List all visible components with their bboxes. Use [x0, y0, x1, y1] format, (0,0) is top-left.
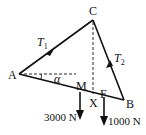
label-f: F — [100, 87, 107, 101]
load-arrowhead-f-icon — [100, 116, 108, 126]
beam-ab — [19, 74, 124, 100]
load-arrowhead-m-icon — [76, 110, 84, 120]
angle-arc — [41, 74, 42, 79]
label-b: B — [126, 97, 134, 111]
label-c: C — [89, 4, 97, 18]
label-a: A — [8, 68, 17, 82]
load-label-3000: 3000 N — [44, 111, 77, 123]
label-t1: T1 — [37, 35, 48, 51]
label-t2: T2 — [114, 51, 125, 67]
load-label-1000: 1000 N — [108, 115, 141, 127]
diagram-canvas: A C B M X F T1 T2 α 3000 N 1000 N — [0, 0, 146, 135]
rope-ac — [19, 20, 93, 74]
label-x: X — [89, 96, 98, 110]
label-alpha: α — [54, 72, 61, 86]
label-m: M — [76, 79, 87, 93]
